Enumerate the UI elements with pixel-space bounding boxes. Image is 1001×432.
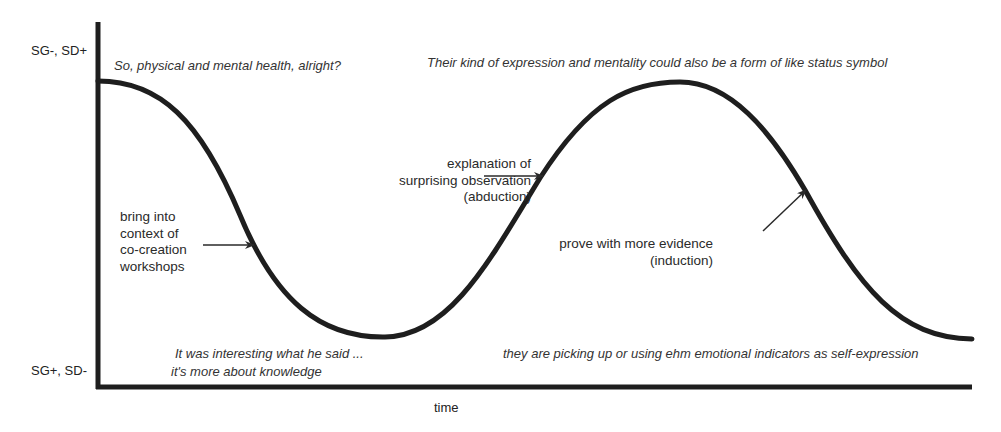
x-axis-label: time: [434, 400, 459, 416]
quote-bottom-right: they are picking up or using ehm emotion…: [503, 346, 919, 362]
y-axis-top-label: SG-, SD+: [31, 43, 87, 59]
note-induction: prove with more evidence (induction): [559, 236, 713, 269]
quote-top-left: So, physical and mental health, alright?: [114, 58, 341, 74]
arrow-induction: [763, 190, 806, 231]
note-context: bring into context of co-creation worksh…: [120, 209, 187, 275]
sensemaking-curve: [98, 81, 972, 339]
quote-top-right: Their kind of expression and mentality c…: [427, 55, 887, 71]
quote-bottom-left-line2: it's more about knowledge: [171, 364, 322, 380]
quote-bottom-left-line1: It was interesting what he said ...: [175, 346, 364, 362]
y-axis-bottom-label: SG+, SD-: [31, 363, 87, 379]
note-abduction: explanation of surprising observation (a…: [399, 156, 531, 206]
